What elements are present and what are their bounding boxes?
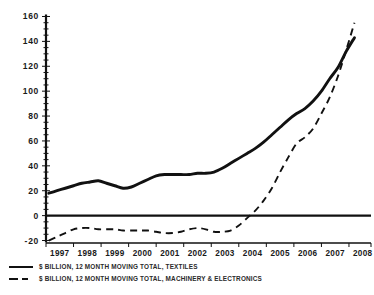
y-tick-label: 60	[28, 136, 39, 146]
y-tick-label: -20	[25, 236, 39, 246]
y-tick-label: 80	[28, 111, 39, 121]
series-line-textiles	[49, 38, 355, 194]
x-tick-label: 2004	[243, 249, 263, 258]
series-line-machinery-electronics	[49, 23, 355, 241]
y-tick-label: 0	[34, 211, 39, 221]
y-tick-label: 160	[23, 11, 39, 21]
legend-label-textiles: $ BILLION, 12 MONTH MOVING TOTAL, TEXTIL…	[39, 262, 198, 272]
x-tick-label: 1998	[78, 249, 98, 258]
y-tick-label: 100	[23, 86, 39, 96]
chart-legend: $ BILLION, 12 MONTH MOVING TOTAL, TEXTIL…	[8, 261, 368, 285]
y-axis-group: -20020406080100120140160	[23, 11, 50, 245]
chart-container: -20020406080100120140160 199719981999200…	[0, 0, 374, 295]
legend-label-machinery-electronics: $ BILLION, 12 MONTH MOVING TOTAL, MACHIN…	[39, 274, 262, 284]
x-tick-label: 1997	[50, 249, 70, 258]
x-tick-label: 2002	[188, 249, 208, 258]
x-tick-label: 2000	[133, 249, 153, 258]
x-tick-label: 2008	[353, 249, 373, 258]
y-tick-label: 120	[23, 61, 39, 71]
legend-item-machinery-electronics: $ BILLION, 12 MONTH MOVING TOTAL, MACHIN…	[8, 273, 368, 284]
y-axis-tick-labels: -20020406080100120140160	[23, 11, 39, 245]
dashed-line-swatch-icon	[8, 274, 34, 284]
solid-line-swatch-icon	[8, 262, 34, 272]
x-tick-label: 2003	[215, 249, 235, 258]
line-chart-plot: -20020406080100120140160 199719981999200…	[0, 0, 374, 260]
y-tick-label: 20	[28, 186, 39, 196]
x-tick-label: 2006	[298, 249, 318, 258]
x-tick-label: 2005	[270, 249, 290, 258]
x-tick-label: 2007	[325, 249, 345, 258]
x-tick-label: 2001	[160, 249, 180, 258]
x-axis-group: 1997199819992000200120022003200420052006…	[46, 243, 373, 258]
y-tick-label: 140	[23, 36, 39, 46]
x-axis-tick-labels: 1997199819992000200120022003200420052006…	[50, 249, 373, 258]
y-tick-label: 40	[28, 161, 39, 171]
x-tick-label: 1999	[105, 249, 125, 258]
legend-item-textiles: $ BILLION, 12 MONTH MOVING TOTAL, TEXTIL…	[8, 261, 368, 272]
